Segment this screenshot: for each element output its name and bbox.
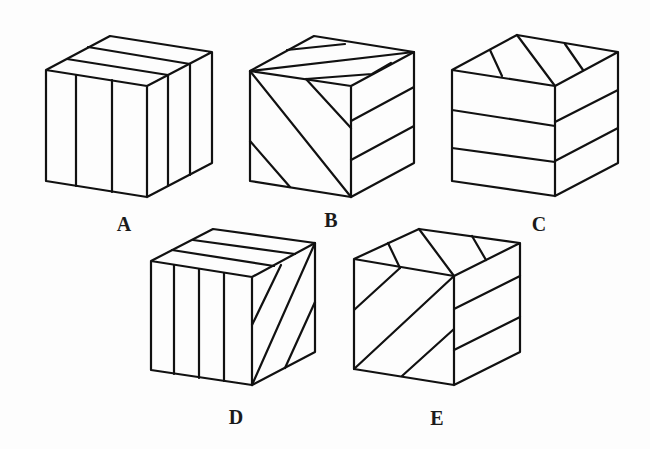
cube-d[interactable] [151, 229, 315, 385]
cube-a[interactable] [46, 36, 212, 197]
cube-d-front-stripes [174, 265, 224, 381]
cube-b-right-stripes [351, 87, 414, 160]
label-a: A [117, 213, 132, 235]
cube-b[interactable] [250, 36, 414, 197]
cube-b-front-stripes [250, 71, 351, 197]
cube-d-top-stripes [172, 240, 295, 266]
cube-a-right-stripes [168, 64, 190, 186]
cube-options-diagram: A B C D E [0, 0, 650, 449]
cube-c-front-stripes [452, 110, 555, 162]
label-b: B [324, 209, 337, 231]
label-d: D [229, 406, 243, 428]
cube-c[interactable] [452, 35, 618, 196]
cube-a-top-stripes [67, 47, 190, 75]
label-e: E [430, 407, 443, 429]
cube-e[interactable] [354, 229, 520, 385]
cube-e-front-stripes [354, 268, 454, 376]
cube-a-front-stripes [76, 75, 112, 192]
cube-e-right-stripes [454, 276, 520, 350]
label-c: C [532, 213, 546, 235]
cube-c-right-stripes [555, 90, 618, 161]
